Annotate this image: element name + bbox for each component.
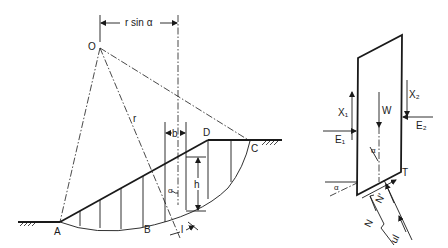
slice-force-figure: X₁ X₂ W E₁ E₂ α α T N' N ul (323, 35, 433, 245)
shear-right-label: X₂ (409, 89, 420, 100)
point-C-label: C (251, 143, 258, 154)
effective-normal-arrow (386, 184, 394, 203)
slice-lines (80, 140, 231, 229)
effective-normal-label: N' (373, 192, 387, 205)
slice-width-label: b (172, 128, 178, 139)
slope-figure: r sin α O r A B D C b h α l (18, 15, 282, 238)
weight-label: W (382, 105, 392, 116)
point-D-label: D (203, 127, 210, 138)
normal-right-label: E₂ (416, 120, 427, 131)
moment-arm-label: r sin α (125, 17, 153, 28)
base-length-label: l (181, 224, 183, 235)
slip-circle-arc (60, 141, 250, 231)
point-B-label: B (144, 224, 151, 235)
slice-height-label: h (194, 179, 200, 190)
normal-left-label: E₁ (335, 134, 346, 145)
point-O-label: O (88, 41, 96, 52)
l-dim-arrow (186, 226, 194, 230)
slope-stability-diagram: r sin α O r A B D C b h α l X₁ (0, 0, 448, 248)
total-normal-label: N (362, 217, 375, 228)
base-angle-label: α (168, 186, 173, 195)
ground-hatch-right (262, 141, 278, 145)
shear-left-label: X₁ (338, 107, 349, 118)
shear-base-label: T (402, 167, 408, 178)
point-A-label: A (54, 226, 61, 237)
radius-OB (100, 48, 180, 238)
radius-OA (60, 48, 100, 222)
slice-outline (357, 35, 402, 195)
radius-label: r (133, 113, 137, 124)
pore-force-label: ul (388, 233, 401, 245)
base-angle-bottom-label: α (334, 183, 339, 192)
alpha-arc-slope (172, 191, 178, 193)
base-angle-top-label: α (371, 146, 376, 155)
